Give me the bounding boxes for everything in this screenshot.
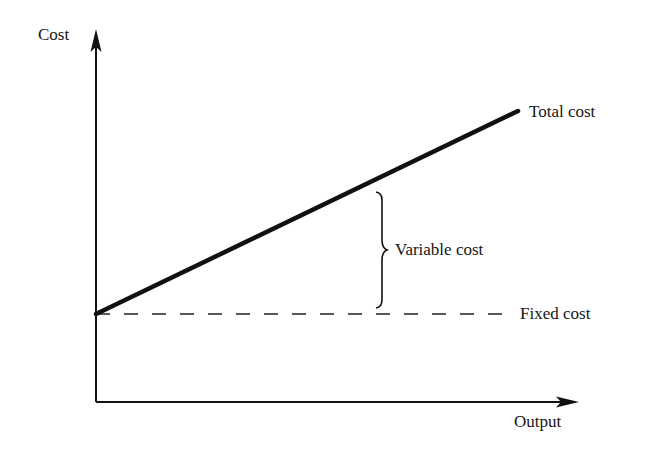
y-axis-label: Cost — [38, 25, 69, 45]
cost-diagram — [0, 0, 652, 456]
total-cost-label: Total cost — [529, 102, 595, 122]
fixed-cost-label: Fixed cost — [520, 304, 590, 324]
x-axis-label: Output — [514, 412, 561, 432]
variable-cost-label: Variable cost — [395, 240, 483, 260]
total-cost-line — [96, 111, 518, 314]
variable-cost-brace — [376, 192, 387, 308]
